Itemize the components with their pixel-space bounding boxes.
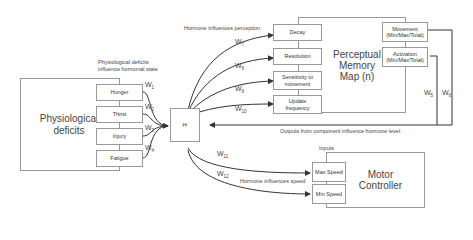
weight-w12: W12 (217, 170, 229, 179)
feedback-caption: Outputs from component influence hormone… (280, 128, 400, 134)
weight-w6: W6 (442, 89, 451, 98)
weight-w2: W2 (145, 103, 154, 112)
output-movement: Movement (Min/Max/Total) (382, 22, 428, 42)
speed-caption: Hormone influences speed (240, 178, 305, 184)
weight-w9: W9 (235, 85, 244, 94)
output-activation: Activation (Min/Max/Total) (382, 47, 428, 67)
weight-w3: W3 (145, 124, 154, 133)
perception-sensitivity: Sensitivity to movement (273, 71, 322, 90)
deficit-thirst: Thirst (96, 106, 143, 123)
motor-min-speed: Min Speed (312, 184, 346, 204)
weight-w5: W5 (424, 89, 433, 98)
perception-decay: Decay (273, 24, 322, 41)
weight-w7: W7 (235, 38, 244, 47)
inputs-caption: Inputs (319, 145, 334, 151)
physiological-title: Physiological deficits (39, 113, 99, 136)
deficit-injury: Injury (96, 128, 143, 145)
weight-w10: W10 (235, 105, 247, 114)
weight-w8: W8 (235, 62, 244, 71)
perception-caption: Hormone influences perception (184, 25, 260, 31)
weight-w4: W4 (145, 144, 154, 153)
hormone-box: Hi (170, 108, 200, 142)
weight-w1: W1 (145, 81, 154, 90)
deficit-fatigue: Fatigue (96, 150, 143, 167)
weight-w11: W11 (217, 150, 228, 159)
deficit-hunger: Hunger (96, 84, 143, 101)
perception-resolution: Resolution (273, 48, 322, 65)
perception-update-frequency: Update frequency (273, 95, 322, 114)
motor-max-speed: Max Speed (312, 162, 346, 182)
physiological-caption: Physiological deficits influence hormona… (98, 59, 158, 72)
